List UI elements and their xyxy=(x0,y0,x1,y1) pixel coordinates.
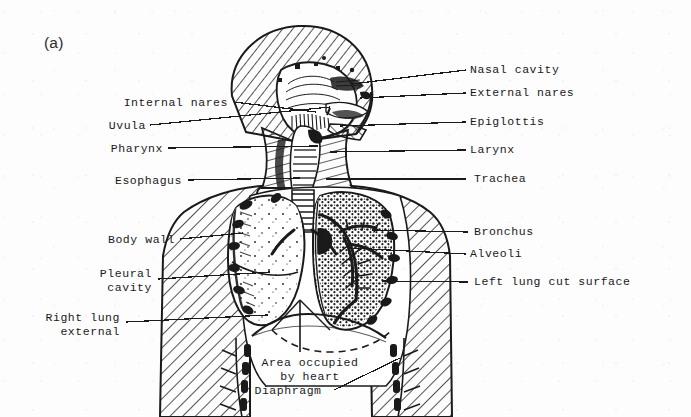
head-sagittal-section xyxy=(232,26,373,142)
label-internal-nares: Internal nares xyxy=(0,96,228,110)
label-right-lung-external: Right lung external xyxy=(0,311,120,338)
label-nasal-cavity: Nasal cavity xyxy=(470,63,559,77)
anatomical-illustration xyxy=(0,0,691,417)
label-pharynx: Pharynx xyxy=(0,142,163,156)
label-larynx: Larynx xyxy=(470,143,515,157)
label-pleural-cavity: Pleural cavity xyxy=(0,267,152,294)
label-uvula: Uvula xyxy=(0,119,146,133)
label-diaphragm: Diaphragm xyxy=(178,384,398,398)
label-body-wall: Body wall xyxy=(0,233,175,247)
label-esophagus: Esophagus xyxy=(0,174,182,188)
respiratory-system-figure: (a) Internal naresUvulaPharynxEsophagusB… xyxy=(0,0,691,417)
label-area-occupied-by-heart: Area occupied by heart xyxy=(200,356,420,383)
leader-larynx xyxy=(330,150,466,152)
leader-external-nares xyxy=(360,93,466,98)
panel-letter: (a) xyxy=(44,34,64,52)
label-epiglottis: Epiglottis xyxy=(470,115,545,129)
neck xyxy=(262,126,352,190)
label-external-nares: External nares xyxy=(470,86,574,100)
label-alveoli: Alveoli xyxy=(470,247,522,261)
label-bronchus: Bronchus xyxy=(474,225,534,239)
label-left-lung-cut-surface: Left lung cut surface xyxy=(474,275,630,289)
label-trachea: Trachea xyxy=(474,172,526,186)
